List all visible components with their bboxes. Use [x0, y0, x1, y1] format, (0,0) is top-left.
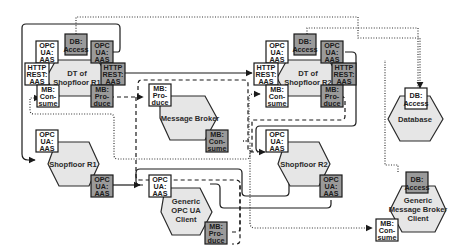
dt-r1-mb-produce-port[interactable]: MB: Pro- duce: [91, 85, 113, 108]
database-db-access-port[interactable]: DB: Access: [403, 88, 428, 109]
generic-mb-client-consume-port[interactable]: MB: Con- sume: [376, 219, 398, 242]
svg-text:Access: Access: [404, 183, 429, 192]
svg-text:Generic: Generic: [404, 196, 432, 205]
svg-text:OPC UA: OPC UA: [171, 206, 201, 215]
dt-r2-mb-consume-port[interactable]: MB: Con- sume: [266, 85, 288, 108]
svg-text:sume: sume: [378, 233, 397, 242]
svg-text:sume: sume: [268, 99, 287, 108]
shopfloor-r2-opc-client-port[interactable]: OPC UA: AAS: [266, 130, 288, 153]
svg-text:duce: duce: [152, 98, 169, 107]
shopfloor-r1-label: Shopfloor R1: [49, 160, 97, 169]
svg-text:Access: Access: [292, 45, 317, 54]
generic-client-opc-port[interactable]: OPC UA: AAS: [149, 175, 171, 198]
dt-r1-opc-server-port[interactable]: OPC UA: AAS: [91, 41, 113, 64]
dt-r1-mb-consume-port[interactable]: MB: Con- sume: [37, 85, 59, 108]
generic-mb-client-db-access-port[interactable]: DB: Access: [404, 172, 429, 193]
generic-client-produce: [232, 182, 240, 232]
svg-text:duce: duce: [324, 99, 341, 108]
dt-r1-label-1: DT of: [67, 69, 87, 78]
svg-text:sume: sume: [39, 99, 58, 108]
shopfloor-r2-opc-server-port[interactable]: OPC UA: AAS: [320, 175, 342, 198]
broker-to-dt-r2-consume: [243, 94, 260, 141]
svg-text:Access: Access: [63, 45, 88, 54]
svg-text:Message Broker: Message Broker: [389, 205, 448, 214]
dt-r2-opc-server-port[interactable]: OPC UA: AAS: [321, 41, 343, 64]
dt-r1-http-server-port[interactable]: HTTP REST: AAS: [101, 63, 125, 86]
message-broker-label: Message Broker: [161, 114, 220, 123]
svg-text:sume: sume: [208, 144, 227, 153]
svg-text:AAS: AAS: [94, 189, 109, 198]
svg-text:AAS: AAS: [152, 189, 167, 198]
database-label: Database: [398, 115, 432, 124]
dt-r2-http-server-port[interactable]: HTTP REST: AAS: [332, 63, 356, 86]
dt-r2-http-client-port[interactable]: HTTP REST: AAS: [254, 63, 278, 86]
svg-text:AAS: AAS: [39, 144, 54, 153]
dt-r2-opc-client-port[interactable]: OPC UA: AAS: [266, 41, 288, 64]
broker-mb-produce-port[interactable]: MB: Pro- duce: [149, 84, 171, 107]
svg-text:AAS: AAS: [269, 144, 284, 153]
svg-text:Client: Client: [175, 215, 197, 224]
dt-r1-opc-client-port[interactable]: OPC UA: AAS: [36, 41, 58, 64]
shopfloor-r1-opc-client-port[interactable]: OPC UA: AAS: [36, 130, 58, 153]
dt-r2-mb-produce-port[interactable]: MB: Pro- duce: [321, 85, 343, 108]
dt-r1-http-client-port[interactable]: HTTP REST: AAS: [25, 63, 49, 86]
svg-text:AAS: AAS: [323, 189, 338, 198]
architecture-diagram: DT of Shopfloor R1 OPC UA: AAS DB: Acces…: [0, 0, 465, 252]
shopfloor-r2-label: Shopfloor R2: [280, 160, 328, 169]
broker-mb-consume-port[interactable]: MB: Con- sume: [206, 130, 228, 153]
dt-r1-db-access-port[interactable]: DB: Access: [63, 34, 88, 55]
svg-text:Generic: Generic: [172, 197, 200, 206]
svg-text:Client: Client: [407, 214, 429, 223]
svg-text:Access: Access: [403, 99, 428, 108]
dt-r2-db-access-port[interactable]: DB: Access: [292, 34, 317, 55]
svg-text:duce: duce: [208, 236, 225, 245]
dt-r2-label-1: DT of: [298, 69, 318, 78]
dt-r1-db-to-database: [76, 17, 420, 88]
svg-text:duce: duce: [94, 99, 111, 108]
generic-client-mb-produce-port[interactable]: MB: Pro- duce: [205, 222, 227, 245]
shopfloor-r1-opc-server-port[interactable]: OPC UA: AAS: [91, 175, 113, 198]
